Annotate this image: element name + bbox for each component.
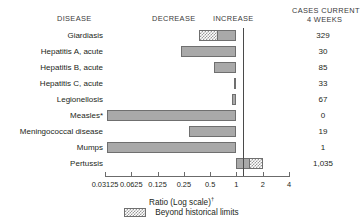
cases-value-legionellosis: 67 xyxy=(290,95,356,104)
row-label-hepatitis-a-acute: Hepatitis A, acute xyxy=(0,47,103,56)
bar-hepatitis-c-acute xyxy=(234,78,237,89)
bar-hepatitis-a-acute xyxy=(181,46,237,57)
x-axis-tick-label: 0.0625 xyxy=(120,180,143,189)
x-axis-tick-label: 0.125 xyxy=(148,180,167,189)
bar-measles xyxy=(107,110,236,121)
x-axis-tick-label: 0.25 xyxy=(177,180,191,189)
legend-swatch-beyond-historical-limits xyxy=(124,208,146,217)
cases-value-pertussis: 1,035 xyxy=(290,159,356,168)
x-axis-title: Ratio (Log scale)† xyxy=(0,196,363,207)
x-axis-tick xyxy=(210,172,211,176)
x-axis-tick xyxy=(131,172,132,176)
x-axis-title-text: Ratio (Log scale) xyxy=(149,198,211,207)
row-label-meningococcal-disease: Meningococcal disease xyxy=(0,127,103,136)
column-header-decrease: DECREASE xyxy=(152,14,195,23)
x-axis-tick xyxy=(289,172,290,176)
x-axis-tick xyxy=(184,172,185,176)
x-axis-tick xyxy=(158,172,159,176)
row-label-hepatitis-b-acute: Hepatitis B, acute xyxy=(0,63,103,72)
x-axis-line xyxy=(105,176,290,177)
disease-ratio-chart: DISEASE DECREASE INCREASE CASES CURRENT … xyxy=(0,0,363,222)
cases-value-hepatitis-b-acute: 85 xyxy=(290,63,356,72)
cases-value-meningococcal-disease: 19 xyxy=(290,127,356,136)
cases-value-hepatitis-c-acute: 33 xyxy=(290,79,356,88)
cases-value-giardiasis: 329 xyxy=(290,31,356,40)
x-axis-tick xyxy=(105,172,106,176)
bar-meningococcal-disease xyxy=(189,126,236,137)
x-axis-tick-label: 1 xyxy=(234,180,238,189)
column-header-disease: DISEASE xyxy=(57,14,92,23)
column-header-cases-line1: CASES CURRENT xyxy=(292,6,360,15)
x-axis-tick-label: 2 xyxy=(261,180,265,189)
x-axis-title-footnote-marker: † xyxy=(211,196,214,202)
bar-segment-beyond-historical-limits xyxy=(249,158,263,169)
column-header-increase: INCREASE xyxy=(213,14,254,23)
bar-mumps xyxy=(107,142,236,153)
x-axis-tick xyxy=(236,172,237,176)
row-label-hepatitis-c-acute: Hepatitis C, acute xyxy=(0,79,103,88)
row-label-measles: Measles* xyxy=(0,111,103,120)
cases-value-mumps: 1 xyxy=(290,143,356,152)
x-axis-tick-label: 0.5 xyxy=(205,180,215,189)
column-header-cases-line2: 4 WEEKS xyxy=(307,15,342,24)
bar-segment-beyond-historical-limits xyxy=(199,30,219,41)
x-axis-tick xyxy=(263,172,264,176)
row-label-giardiasis: Giardiasis xyxy=(0,31,103,40)
cases-value-measles: 0 xyxy=(290,111,356,120)
row-label-mumps: Mumps xyxy=(0,143,103,152)
x-axis-tick-label: 4 xyxy=(287,180,291,189)
x-axis-tick-label: 0.03125 xyxy=(92,180,119,189)
legend: Beyond historical limits xyxy=(0,208,363,217)
row-label-legionellosis: Legionellosis xyxy=(0,95,103,104)
reference-line-ratio-1 xyxy=(243,28,244,176)
bar-legionellosis xyxy=(232,94,237,105)
bar-hepatitis-b-acute xyxy=(214,62,237,73)
row-label-pertussis: Pertussis xyxy=(0,159,103,168)
legend-label-beyond-historical-limits: Beyond historical limits xyxy=(155,208,238,217)
cases-value-hepatitis-a-acute: 30 xyxy=(290,47,356,56)
bar-segment-within-historical-limits xyxy=(217,30,236,41)
